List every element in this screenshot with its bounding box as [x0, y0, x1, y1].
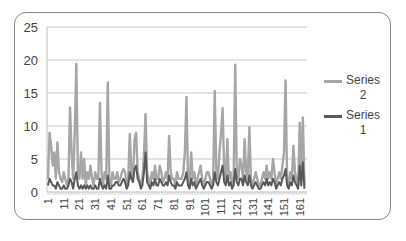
- y-tick-label: 25: [24, 20, 38, 35]
- series-1-label: Series: [346, 108, 380, 122]
- y-tick-label: 10: [24, 119, 38, 134]
- x-tick-label: 131: [247, 198, 259, 216]
- x-tick-label: 61: [136, 198, 148, 210]
- y-tick-label: 15: [24, 86, 38, 101]
- y-axis: 0510152025: [24, 20, 47, 200]
- series-2-swatch: [324, 80, 342, 83]
- x-tick-label: 151: [278, 198, 290, 216]
- x-tick-label: 91: [184, 198, 196, 210]
- y-tick-label: 0: [31, 185, 38, 200]
- series-1-swatch: [324, 115, 342, 118]
- x-tick-label: 1: [42, 198, 54, 204]
- series-2-label: Series: [346, 73, 380, 87]
- y-tick-label: 5: [31, 152, 38, 167]
- gridlines: [47, 27, 307, 159]
- x-tick-label: 51: [121, 198, 133, 210]
- x-tick-label: 111: [215, 198, 227, 215]
- x-tick-label: 121: [231, 198, 243, 216]
- x-tick-label: 101: [199, 198, 211, 216]
- series-line-series-2: [48, 64, 304, 185]
- series-1-label-number: 1: [360, 123, 367, 137]
- x-tick-label: 81: [168, 198, 180, 210]
- series-2-label-number: 2: [360, 88, 367, 102]
- x-tick-label: 31: [89, 198, 101, 210]
- x-tick-label: 41: [105, 198, 117, 210]
- y-tick-label: 20: [24, 53, 38, 68]
- x-tick-label: 21: [73, 198, 85, 210]
- x-tick-label: 141: [262, 198, 274, 216]
- x-tick-label: 161: [294, 198, 306, 216]
- x-tick-label: 71: [152, 198, 164, 210]
- x-axis: 1112131415161718191101111121131141151161: [42, 192, 307, 216]
- x-tick-label: 11: [58, 198, 70, 209]
